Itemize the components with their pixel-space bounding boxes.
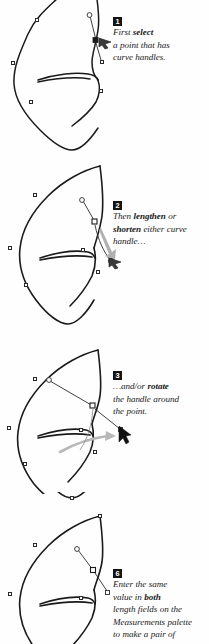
caption-step-6: 6Enter the samevalue in bothlength field… (113, 566, 209, 640)
caption-line: the point. (113, 405, 209, 417)
caption-line: value in both (113, 591, 209, 603)
caption-line: First select (113, 26, 209, 38)
control-handle-point-upper (87, 13, 92, 18)
control-handle-point-upper (80, 198, 85, 203)
panel-3-shape-overflow (0, 492, 209, 514)
caption-line: curve handles. (113, 51, 209, 63)
cursor-arrow (119, 426, 131, 444)
caption-line: shorten either curve (113, 223, 209, 235)
rotate-arrow-head (105, 431, 116, 441)
step-number-badge: 3 (113, 371, 122, 380)
caption-text-step-6: Enter the samevalue in bothlength fields… (113, 578, 209, 640)
caption-text-step-2: Then lengthen orshorten either curvehand… (113, 210, 209, 247)
caption-line: the handle around (113, 393, 209, 405)
panel-step-3: 3…and/or rotatethe handle aroundthe poin… (0, 332, 209, 492)
step-number-badge: 1 (113, 17, 122, 26)
caption-line: to make a pair of (113, 628, 209, 640)
caption-step-3: 3…and/or rotatethe handle aroundthe poin… (113, 368, 209, 418)
control-handle-point-rotated (47, 378, 52, 383)
caption-line: Measurements palette (113, 616, 209, 628)
caption-text-step-1: First selecta point that hascurve handle… (113, 26, 209, 63)
panel-step-1: 1First selecta point that hascurve handl… (0, 0, 209, 160)
caption-line: a point that has (113, 39, 209, 51)
panel-step-6: 6Enter the samevalue in bothlength field… (0, 492, 209, 644)
cursor-pointer (99, 38, 111, 49)
selected-anchor-point (90, 403, 95, 408)
step-number-badge: 6 (113, 569, 122, 578)
control-handle-point-upper (75, 547, 80, 552)
step-number-badge: 2 (113, 201, 122, 210)
caption-line: handle… (113, 235, 209, 247)
selected-anchor-point (93, 38, 98, 43)
instructional-figure: 1First selecta point that hascurve handl… (0, 0, 209, 644)
caption-line: …and/or rotate (113, 380, 209, 392)
selected-anchor-point (91, 568, 96, 573)
caption-step-1: 1First selecta point that hascurve handl… (113, 14, 209, 64)
caption-line: Then lengthen or (113, 210, 209, 222)
caption-text-step-3: …and/or rotatethe handle aroundthe point… (113, 380, 209, 417)
panel-step-2: 2Then lengthen orshorten either curvehan… (0, 160, 209, 332)
caption-step-2: 2Then lengthen orshorten either curvehan… (113, 198, 209, 248)
caption-line: Enter the same (113, 578, 209, 590)
selected-anchor-point (92, 219, 97, 224)
caption-line: length fields on the (113, 603, 209, 615)
control-handle-point-lower (106, 591, 110, 595)
